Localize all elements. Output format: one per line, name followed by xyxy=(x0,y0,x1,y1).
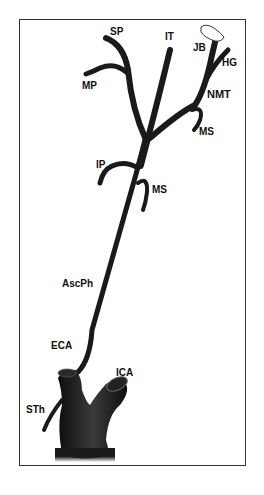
sp-branch xyxy=(106,38,146,140)
label-ica: ICA xyxy=(116,368,133,378)
jb-outline xyxy=(201,25,224,41)
mp-branch xyxy=(86,66,126,74)
label-eca: ECA xyxy=(51,341,72,351)
label-ip: IP xyxy=(96,160,105,170)
label-sp: SP xyxy=(110,27,123,37)
label-ascph: AscPh xyxy=(62,279,93,289)
label-ms-lower: MS xyxy=(152,185,167,195)
label-hg: HG xyxy=(222,58,237,68)
label-nmt: NMT xyxy=(207,89,231,100)
artery-diagram xyxy=(0,0,264,495)
label-mp: MP xyxy=(82,81,97,91)
label-it: IT xyxy=(165,32,174,42)
label-jb: JB xyxy=(193,43,206,53)
label-ms-upper: MS xyxy=(199,127,214,137)
label-sth: STh xyxy=(26,405,45,415)
carotid-fade xyxy=(55,448,115,462)
ms-lower-branch xyxy=(138,181,147,210)
eca-lumen xyxy=(58,369,76,377)
sth-branch xyxy=(44,400,62,430)
ascph-trunk xyxy=(78,160,140,372)
